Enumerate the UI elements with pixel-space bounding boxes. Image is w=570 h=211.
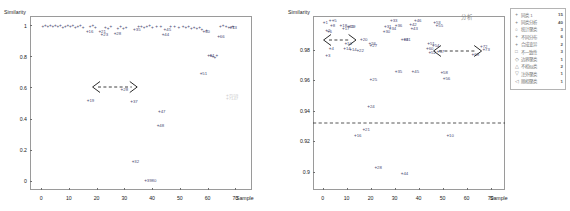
legend-marker-icon: △: [513, 64, 520, 69]
legend-item-label: 边界聚类: [520, 56, 554, 62]
y-tick-label: 0.92: [291, 138, 310, 144]
legend-marker-icon: +: [513, 42, 520, 47]
legend-item[interactable]: □不一致性3: [513, 48, 563, 55]
data-point: +37: [130, 100, 137, 105]
legend-item-label: 不相似类: [520, 63, 554, 69]
x-tick-label: 0: [32, 195, 50, 201]
figure-container: Similarity Sample 00.20.40.60.8101020304…: [0, 0, 570, 211]
point-label: 58: [443, 70, 448, 75]
legend-item[interactable]: +同类分析40: [513, 18, 563, 25]
chart-panel-left: Similarity Sample 00.20.40.60.8101020304…: [0, 0, 285, 211]
y-tick-mark: [30, 181, 32, 182]
point-label: 51: [202, 71, 207, 76]
point-label: 30: [385, 28, 390, 33]
data-point: +: [155, 24, 158, 29]
x-tick-label: 70: [226, 195, 244, 201]
y-tick-mark: [30, 119, 32, 120]
y-tick-mark: [313, 141, 315, 142]
corner-annotation: 分析: [461, 13, 473, 21]
legend-item[interactable]: ○统计聚类3: [513, 26, 563, 33]
data-point: +23: [101, 32, 108, 37]
data-point: +: [173, 24, 176, 29]
point-label: 19: [351, 24, 356, 29]
data-point: +32: [132, 160, 139, 165]
point-label: 19: [89, 98, 94, 103]
y-tick-mark: [30, 150, 32, 151]
legend-item-count: 3: [554, 49, 563, 54]
x-tick-label: 50: [434, 195, 452, 201]
legend-item-label: 合成变异: [520, 41, 554, 47]
legend-item[interactable]: ▽注外聚类1: [513, 70, 563, 77]
legend-item[interactable]: △不相似类2: [513, 63, 563, 70]
legend-item-label: 不同分布: [520, 34, 554, 40]
x-tick-mark: [419, 188, 420, 190]
x-tick-mark: [371, 188, 372, 190]
legend-item-count: 2: [554, 42, 563, 47]
x-tick-label: 10: [338, 195, 356, 201]
point-marker: +: [82, 24, 85, 29]
legend-item[interactable]: +合成变异2: [513, 41, 563, 48]
plot-area-left: [30, 16, 252, 190]
data-point: +58: [440, 71, 447, 76]
legend-item-label: 注外聚类: [520, 71, 554, 77]
point-label: 36: [397, 23, 402, 28]
data-point: +: [82, 25, 85, 30]
point-label: 44: [164, 31, 169, 36]
point-label: 16: [89, 29, 94, 34]
point-label: 45: [414, 69, 419, 74]
point-label: 28: [377, 165, 382, 170]
x-tick-label: 50: [171, 195, 189, 201]
data-point: +21: [362, 128, 369, 133]
point-label: 66: [220, 33, 225, 38]
point-label: 46: [417, 18, 422, 23]
legend-item-count: 1: [554, 71, 563, 76]
point-label: 73: [485, 47, 490, 52]
x-tick-label: 70: [482, 195, 500, 201]
y-tick-label: 1: [8, 23, 27, 29]
point-marker: +: [94, 25, 97, 30]
y-tick-label: 0.96: [291, 77, 310, 83]
data-point: +47: [158, 109, 165, 114]
threshold-line-annotation: [313, 122, 505, 124]
y-tick-label: 0.9: [291, 169, 310, 175]
data-point: +: [177, 25, 180, 30]
point-label: 55: [438, 23, 443, 28]
x-tick-mark: [323, 188, 324, 190]
x-tick-mark: [208, 188, 209, 190]
legend-item-label: 不一致性: [520, 49, 554, 55]
legend-marker-icon: ◇: [513, 57, 520, 62]
point-label: 35: [397, 68, 402, 73]
x-tick-mark: [180, 188, 181, 190]
point-label: 28: [116, 31, 121, 36]
y-tick-label: 0.98: [291, 47, 310, 53]
y-tick-label: 0.94: [291, 108, 310, 114]
y-axis-label-left: Similarity: [4, 9, 26, 15]
legend-marker-icon: +: [513, 34, 520, 39]
data-point: +: [109, 25, 112, 30]
x-tick-mark: [347, 188, 348, 190]
point-label: 23: [103, 31, 108, 36]
point-label: 48: [159, 122, 164, 127]
data-point: +55: [436, 24, 443, 29]
legend-item[interactable]: ◇边界聚类1: [513, 55, 563, 62]
legend-item-count: 3: [554, 27, 563, 32]
point-label: 21: [365, 127, 370, 132]
legend-item[interactable]: +同类 115: [513, 11, 563, 18]
x-tick-mark: [443, 188, 444, 190]
point-label: 17: [345, 26, 350, 31]
point-marker: +: [232, 23, 235, 28]
x-tick-mark: [395, 188, 396, 190]
legend-item[interactable]: +不同分布6: [513, 33, 563, 40]
data-point: +1: [323, 21, 328, 26]
data-point: +7147: [226, 97, 238, 102]
legend-item[interactable]: ◁顺相聚类1: [513, 78, 563, 85]
data-point: +46: [414, 19, 421, 24]
point-label: 7147: [229, 96, 239, 101]
data-point: +56: [443, 77, 450, 82]
y-tick-mark: [30, 25, 32, 26]
y-tick-mark: [313, 50, 315, 51]
y-tick-label: 0.2: [8, 147, 27, 153]
x-tick-label: 20: [88, 195, 106, 201]
data-point: +19: [87, 99, 94, 104]
data-point: +: [125, 26, 128, 31]
